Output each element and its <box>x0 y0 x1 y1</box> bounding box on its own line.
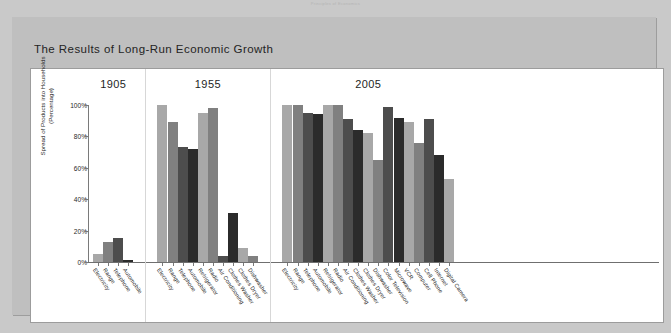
bar <box>383 107 393 262</box>
bar <box>93 254 103 262</box>
figure-panel: The Results of Long-Run Economic Growth … <box>12 17 656 315</box>
bar <box>303 113 313 262</box>
bar <box>313 114 323 262</box>
bar <box>414 143 424 262</box>
bar <box>228 213 238 262</box>
bar <box>363 133 373 262</box>
bar <box>404 122 414 262</box>
bar <box>394 118 404 262</box>
bar <box>157 105 167 262</box>
bar <box>373 160 383 262</box>
bar <box>333 105 343 262</box>
bar <box>168 122 178 262</box>
bar <box>208 108 218 262</box>
bar <box>178 147 188 262</box>
bar <box>248 256 258 262</box>
bar <box>188 149 198 262</box>
bar <box>103 242 113 262</box>
bar <box>444 179 454 262</box>
bar <box>218 256 228 262</box>
bar <box>198 113 208 262</box>
bar <box>434 155 444 262</box>
bar <box>293 105 303 262</box>
bar <box>282 105 292 262</box>
bar <box>343 119 353 262</box>
bar <box>238 248 248 262</box>
bar <box>123 260 133 262</box>
bar <box>323 105 333 262</box>
bar <box>424 119 434 262</box>
chart-plot-area: Spread of Products into Households (Perc… <box>30 68 664 323</box>
figure-page: Principles of Economics The Results of L… <box>0 0 671 333</box>
running-head: Principles of Economics <box>0 1 671 6</box>
figure-title: The Results of Long-Run Economic Growth <box>34 43 273 55</box>
bar <box>113 238 123 262</box>
bar <box>353 130 363 262</box>
